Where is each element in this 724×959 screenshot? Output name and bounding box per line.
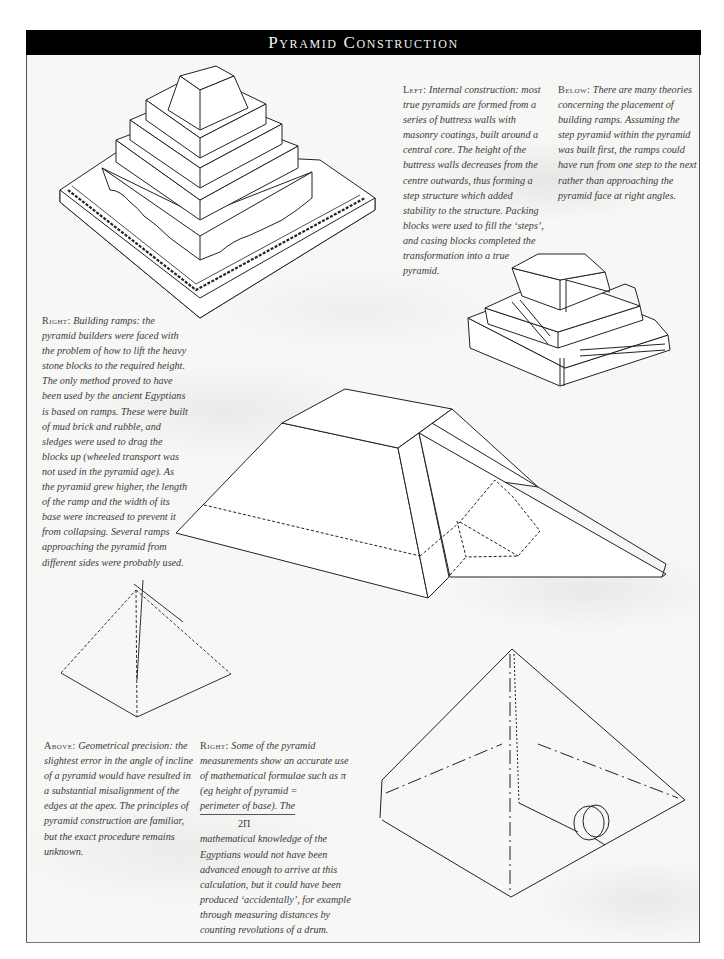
caption-lead: Right: [200,740,229,751]
formula-denominator: 2Π [200,817,352,831]
drum-measurement-diagram [380,640,710,930]
internal-construction-diagram [20,40,400,340]
formula-numerator: perimeter of base). The [200,798,295,815]
caption-body: There are many theories concerning the p… [558,84,697,201]
caption-lead: Right: [42,315,71,326]
geometric-precision-diagram [55,570,235,720]
caption-body: Geometrical precision: the slightest err… [44,740,193,857]
caption-lead: Left: [403,84,427,95]
caption-geometric-precision: Above: Geometrical precision: the slight… [44,738,194,859]
caption-building-ramps: Right: Building ramps: the pyramid build… [42,313,188,570]
caption-stepped-ramps: Below: There are many theories concernin… [558,82,698,203]
caption-internal-construction: Left: Internal construction: most true p… [403,82,548,278]
caption-body-continued: mathematical knowledge of the Egyptians … [200,833,351,935]
caption-lead: Below: [558,84,590,95]
caption-mathematics: Right: Some of the pyramid measurements … [200,738,352,937]
caption-lead: Above: [44,740,76,751]
building-ramp-diagram [170,380,710,670]
caption-body: Internal construction: most true pyramid… [403,84,544,276]
caption-body: Building ramps: the pyramid builders wer… [42,315,188,568]
